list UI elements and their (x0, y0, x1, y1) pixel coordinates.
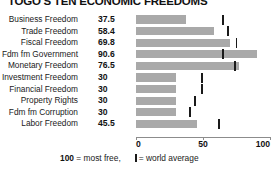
row-label: Monetary Freedom (8, 60, 78, 72)
row-plot (136, 84, 270, 96)
world-average-tick-icon (189, 107, 191, 117)
value-bar (136, 39, 230, 47)
value-bar (136, 97, 176, 105)
chart-row: Fdm fm Corruption30 (0, 107, 276, 119)
value-bar (136, 73, 176, 81)
value-bar (136, 120, 197, 128)
chart-row: Fdm fm Government90.6 (0, 49, 276, 61)
value-bar (136, 85, 176, 93)
chart-legend: 100 = most free,= world average (60, 153, 199, 164)
value-bar (136, 50, 257, 58)
row-label: Fiscal Freedom (21, 37, 78, 49)
row-plot (136, 60, 270, 72)
row-plot (136, 14, 270, 26)
row-value: 30 (98, 107, 128, 119)
value-bar (136, 62, 239, 70)
row-label: Labor Freedom (21, 118, 78, 130)
chart-row: Fiscal Freedom69.8 (0, 37, 276, 49)
world-average-tick-icon (222, 15, 224, 25)
row-plot (136, 72, 270, 84)
row-label: Property Rights (21, 95, 78, 107)
axis-tick-label: 100 (256, 139, 270, 149)
value-bar (136, 15, 186, 23)
chart-row: Trade Freedom58.4 (0, 26, 276, 38)
row-plot (136, 49, 270, 61)
chart-row: Business Freedom37.5 (0, 14, 276, 26)
axis-tick (270, 137, 271, 140)
chart-row: Financial Freedom30 (0, 84, 276, 96)
row-label: Fdm fm Corruption (9, 107, 78, 119)
chart-rows: Business Freedom37.5Trade Freedom58.4Fis… (0, 14, 276, 130)
row-value: 90.6 (98, 49, 128, 61)
value-bar (136, 27, 214, 35)
legend-average-text: = world average (139, 153, 199, 163)
row-plot (136, 107, 270, 119)
world-average-tick-icon (227, 26, 229, 36)
axis-tick-label: 50 (198, 139, 208, 149)
row-plot (136, 26, 270, 38)
row-plot (136, 118, 270, 130)
axis-tick-label: 0 (136, 139, 141, 149)
row-value: 30 (98, 95, 128, 107)
world-average-tick-icon (234, 61, 236, 71)
world-average-tick-icon (222, 49, 224, 59)
row-value: 69.8 (98, 37, 128, 49)
row-value: 45.5 (98, 118, 128, 130)
row-value: 37.5 (98, 14, 128, 26)
chart-row: Labor Freedom45.5 (0, 118, 276, 130)
legend-scale-value: 100 (60, 153, 74, 163)
chart-row: Monetary Freedom76.5 (0, 60, 276, 72)
world-average-tick-icon (201, 73, 203, 83)
world-average-tick-icon (236, 38, 238, 48)
world-average-tick-icon (201, 84, 203, 94)
chart-row: Property Rights30 (0, 95, 276, 107)
row-label: Business Freedom (9, 14, 78, 26)
row-value: 58.4 (98, 26, 128, 38)
row-label: Trade Freedom (21, 26, 78, 38)
row-value: 30 (98, 84, 128, 96)
row-plot (136, 37, 270, 49)
row-label: Investment Freedom (2, 72, 78, 84)
row-value: 76.5 (98, 60, 128, 72)
chart-title: TOGO'S TEN ECONOMIC FREEDOMS (8, 0, 207, 7)
row-value: 30 (98, 72, 128, 84)
row-plot (136, 95, 270, 107)
row-label: Financial Freedom (9, 84, 78, 96)
row-label: Fdm fm Government (2, 49, 78, 61)
world-average-tick-icon (218, 119, 220, 129)
chart-row: Investment Freedom30 (0, 72, 276, 84)
legend-scale-text: = most free, (74, 153, 121, 163)
world-average-tick-icon (135, 154, 137, 163)
world-average-tick-icon (194, 96, 196, 106)
economic-freedoms-chart: TOGO'S TEN ECONOMIC FREEDOMS Business Fr… (0, 0, 276, 174)
value-bar (136, 108, 176, 116)
